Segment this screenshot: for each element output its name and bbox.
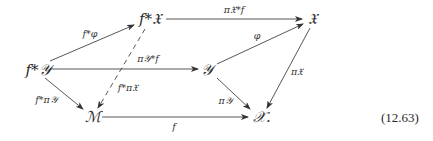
label-f-star-pi-Y: f*π𝒴 <box>35 95 57 105</box>
label-pi-X: π𝔛 <box>291 67 303 77</box>
label-f-star-pi-X: f*π𝔛 <box>118 83 139 93</box>
label-pi-Y-star-f: π𝒴*f <box>137 54 159 64</box>
label-f: f <box>172 122 176 132</box>
equation-number: (12.63) <box>381 111 419 124</box>
label-f-star-phi: f*φ <box>83 29 98 39</box>
node-base-X: 𝒳. <box>253 110 271 125</box>
label-phi: φ <box>254 31 261 41</box>
arrow-fX-to-M-dashed <box>98 29 145 108</box>
label-pi-X-star-f: π𝔛*f <box>224 5 245 15</box>
node-pullback-Y: f*𝒴 <box>25 63 50 78</box>
node-pullback-X: f*𝔛 <box>139 12 161 27</box>
node-X: 𝔛 <box>308 12 317 27</box>
label-pi-Y: π𝒴 <box>218 96 231 106</box>
diagram-arrows <box>0 0 433 141</box>
node-Y: 𝒴 <box>201 63 213 78</box>
node-M: ℳ <box>85 110 101 125</box>
arrow-X-to-Xbase <box>267 28 310 108</box>
